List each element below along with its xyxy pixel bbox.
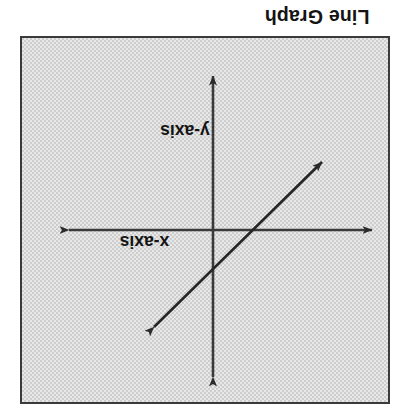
x-axis-label: x-axis — [107, 232, 182, 252]
line-graph-figure: Line Graph y-axis x-axis — [0, 0, 403, 414]
page-title: Line Graph — [243, 2, 391, 30]
plot-panel: y-axis x-axis — [20, 36, 390, 404]
y-axis-label: y-axis — [150, 121, 220, 141]
plot-drawing — [20, 36, 390, 404]
